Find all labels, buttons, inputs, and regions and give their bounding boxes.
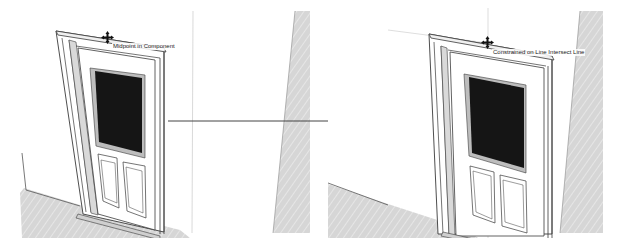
inference-tooltip: Constrained on Line Intersect Line (492, 49, 585, 56)
door-glass (95, 71, 142, 153)
viewport-after: Constrained on Line Intersect Line (328, 8, 603, 238)
door-model-after (328, 8, 603, 238)
door-glass (469, 77, 524, 168)
wall-edge (560, 11, 603, 233)
move-cursor-icon (481, 36, 494, 49)
inference-tooltip: Midpoint in Component (112, 43, 176, 50)
